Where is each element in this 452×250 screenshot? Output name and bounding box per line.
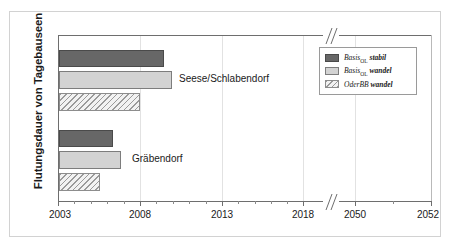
group-label-seese: Seese/Schlabendorf	[179, 73, 269, 84]
bar-graebendorf-oderbb-wandel	[59, 173, 100, 191]
y-axis-title: Flutungsdauer von Tagebauseen	[32, 1, 44, 201]
legend-emph-1: stabil	[369, 53, 386, 62]
tick-major-2003	[58, 201, 59, 206]
bar-seese-basis-stabil	[59, 50, 164, 67]
chart-legend: BasisOL stabil BasisOL wandel OderBB wan…	[319, 47, 417, 95]
tick-minor-2051	[393, 201, 394, 204]
legend-base-3: OderBB	[344, 80, 369, 89]
group-label-graebendorf: Gräbendorf	[132, 153, 183, 164]
x-axis-line	[58, 201, 432, 202]
gridline-2018	[303, 36, 304, 201]
legend-swatch-dark-icon	[325, 54, 339, 62]
tick-minor-2009	[156, 201, 157, 204]
tick-minor-2011	[189, 201, 190, 204]
legend-item-basis-wandel: BasisOL wandel	[325, 65, 411, 77]
legend-emph-2: wandel	[369, 66, 391, 75]
legend-sub-1: OL	[360, 57, 367, 63]
legend-item-oderbb-wandel: OderBB wandel	[325, 78, 411, 90]
tick-label-2018: 2018	[292, 209, 314, 220]
plot-right-border	[431, 35, 432, 202]
tick-major-2052	[431, 201, 432, 206]
tick-major-2013	[222, 201, 223, 206]
bar-graebendorf-basis-stabil	[59, 130, 113, 147]
legend-label-basis-wandel: BasisOL wandel	[344, 66, 392, 77]
tick-minor-2005	[91, 201, 92, 204]
tick-minor-2010	[173, 201, 174, 204]
axis-break-top-icon	[320, 26, 342, 46]
chart-figure: Flutungsdauer von Tagebauseen 20	[0, 0, 452, 250]
legend-label-basis-stabil: BasisOL stabil	[344, 53, 386, 64]
tick-minor-2004	[74, 201, 75, 204]
tick-minor-2016	[271, 201, 272, 204]
bar-graebendorf-basis-wandel	[59, 151, 121, 169]
tick-major-2018	[303, 201, 304, 206]
plot-top-border	[58, 35, 432, 36]
axis-break-bottom-icon	[320, 192, 342, 212]
legend-item-basis-stabil: BasisOL stabil	[325, 52, 411, 64]
tick-minor-2017	[287, 201, 288, 204]
gridline-2013	[222, 36, 223, 201]
legend-sub-2: OL	[360, 70, 367, 76]
legend-emph-3: wandel	[370, 80, 392, 89]
legend-swatch-light-icon	[325, 67, 339, 75]
tick-label-2013: 2013	[211, 209, 233, 220]
tick-minor-2007	[124, 201, 125, 204]
tick-major-2050	[355, 201, 356, 206]
bar-seese-basis-wandel	[59, 71, 172, 89]
tick-label-2050: 2050	[344, 209, 366, 220]
legend-base-1: Basis	[344, 53, 360, 62]
tick-major-2008	[140, 201, 141, 206]
tick-minor-2006	[107, 201, 108, 204]
tick-label-2008: 2008	[129, 209, 151, 220]
legend-label-oderbb-wandel: OderBB wandel	[344, 80, 393, 89]
tick-minor-2015	[255, 201, 256, 204]
legend-swatch-hatched-icon	[325, 80, 339, 88]
legend-base-2: Basis	[344, 66, 360, 75]
bar-seese-oderbb-wandel	[59, 93, 140, 111]
tick-minor-2012	[206, 201, 207, 204]
tick-label-2052: 2052	[417, 209, 439, 220]
tick-label-2003: 2003	[49, 209, 71, 220]
tick-minor-2014	[238, 201, 239, 204]
